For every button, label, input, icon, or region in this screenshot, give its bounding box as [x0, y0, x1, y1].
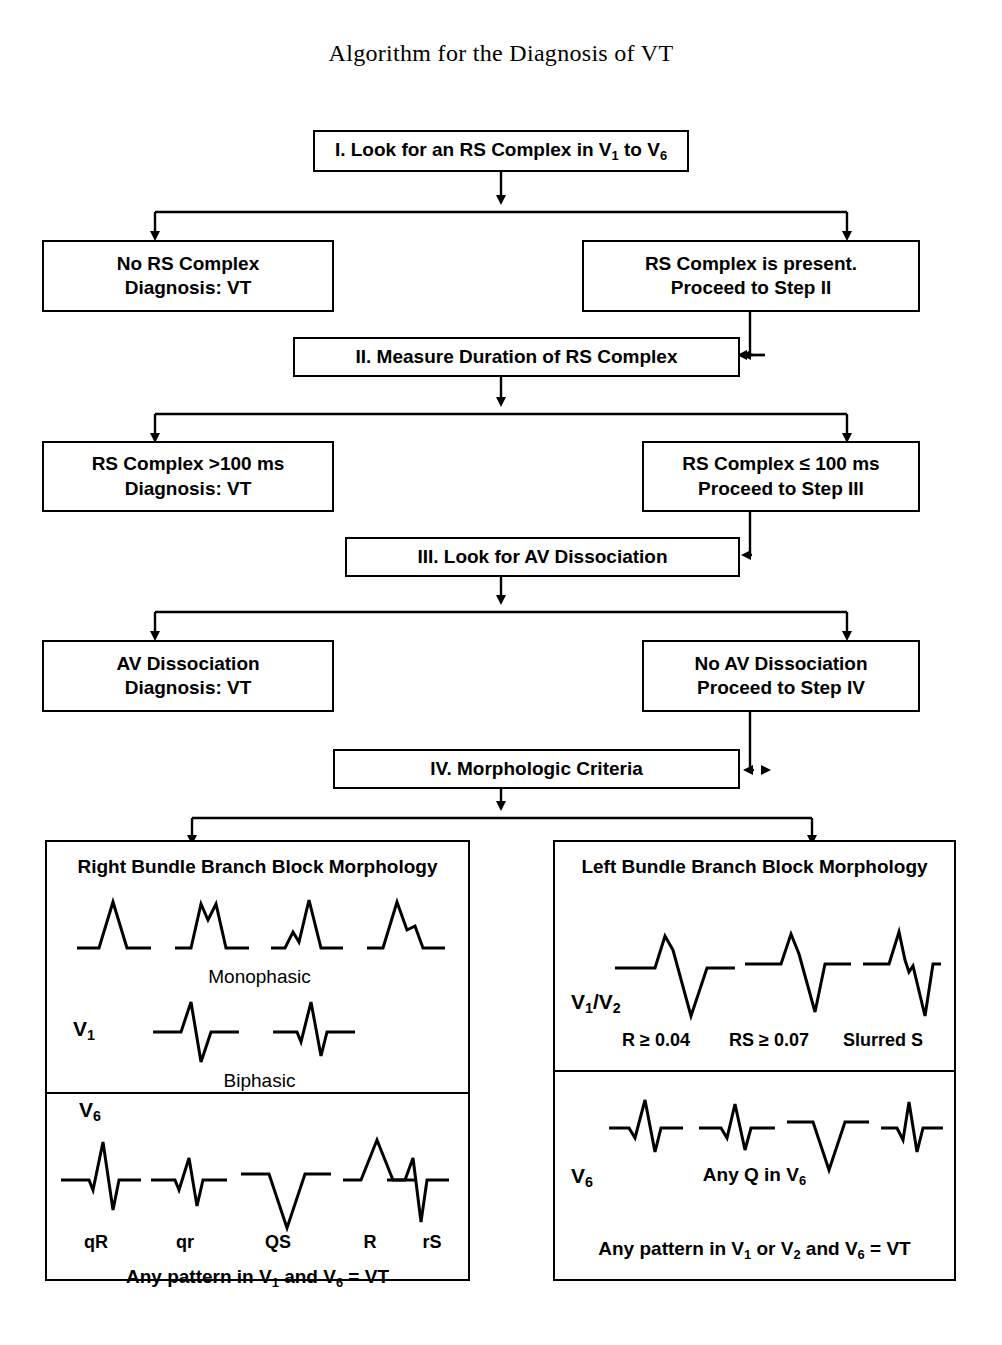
step-3-no-line1: AV Dissociation [116, 652, 259, 676]
rbbb-panel-title: Right Bundle Branch Block Morphology [47, 856, 468, 878]
step-3-no-line2: Diagnosis: VT [125, 676, 252, 700]
lbbb-v12-waveforms [611, 920, 941, 1030]
step-1-no-line1: No RS Complex [117, 252, 260, 276]
step-2-no-line2: Diagnosis: VT [125, 477, 252, 501]
rbbb-footer: Any pattern in V1 and V6 = VT [47, 1266, 468, 1290]
rbbb-v6-label-0: qR [61, 1232, 131, 1253]
step-2-no-box[interactable]: RS Complex >100 ms Diagnosis: VT [42, 441, 334, 512]
step-2-label: II. Measure Duration of RS Complex [356, 345, 678, 369]
rbbb-monophasic-waveforms [71, 890, 461, 962]
step-2-no-line1: RS Complex >100 ms [92, 452, 285, 476]
rbbb-lead-v1-label: V1 [73, 1017, 95, 1043]
rbbb-biphasic-label: Biphasic [47, 1070, 472, 1092]
rbbb-lead-v6-label: V6 [79, 1098, 101, 1124]
step-1-no-box[interactable]: No RS Complex Diagnosis: VT [42, 240, 334, 312]
step-2-yes-box[interactable]: RS Complex ≤ 100 ms Proceed to Step III [642, 441, 920, 512]
lbbb-criterion-1: RS ≥ 0.07 [713, 1030, 825, 1051]
rbbb-biphasic-waveforms [147, 994, 397, 1072]
step-1-label: I. Look for an RS Complex in V1 to V6 [335, 138, 667, 164]
rbbb-v6-label-2: QS [243, 1232, 313, 1253]
step-3-box[interactable]: III. Look for AV Dissociation [345, 537, 740, 577]
lbbb-criterion-0: R ≥ 0.04 [601, 1030, 711, 1051]
rbbb-v6-label-1: qr [150, 1232, 220, 1253]
rbbb-v6-label-4: rS [397, 1232, 467, 1253]
diagram-page: Algorithm for the Diagnosis of VT [0, 0, 1002, 1345]
step-3-no-box[interactable]: AV Dissociation Diagnosis: VT [42, 640, 334, 712]
rbbb-panel: Right Bundle Branch Block Morphology V1 … [45, 840, 470, 1281]
rbbb-v6-waveforms [55, 1134, 465, 1232]
step-3-yes-line2: Proceed to Step IV [697, 676, 865, 700]
rbbb-monophasic-label: Monophasic [47, 966, 472, 988]
rbbb-section-divider [45, 1092, 470, 1094]
step-2-yes-line2: Proceed to Step III [698, 477, 864, 501]
step-2-box[interactable]: II. Measure Duration of RS Complex [293, 337, 740, 377]
step-3-label: III. Look for AV Dissociation [417, 545, 667, 569]
step-1-yes-line2: Proceed to Step II [671, 276, 831, 300]
lbbb-panel-title: Left Bundle Branch Block Morphology [555, 856, 954, 878]
step-1-yes-line1: RS Complex is present. [645, 252, 857, 276]
step-1-box[interactable]: I. Look for an RS Complex in V1 to V6 [313, 130, 689, 172]
step-1-yes-box[interactable]: RS Complex is present. Proceed to Step I… [582, 240, 920, 312]
lbbb-panel: Left Bundle Branch Block Morphology V1/V… [553, 840, 956, 1281]
step-1-no-line2: Diagnosis: VT [125, 276, 252, 300]
lbbb-criterion-2: Slurred S [827, 1030, 939, 1051]
step-4-box[interactable]: IV. Morphologic Criteria [333, 749, 740, 789]
step-3-yes-box[interactable]: No AV Dissociation Proceed to Step IV [642, 640, 920, 712]
rbbb-v6-label-3: R [335, 1232, 405, 1253]
step-4-label: IV. Morphologic Criteria [430, 757, 643, 781]
step-3-yes-line1: No AV Dissociation [694, 652, 867, 676]
lbbb-section-divider [553, 1070, 956, 1072]
lbbb-anyq-label: Any Q in V6 [555, 1164, 954, 1188]
lbbb-footer: Any pattern in V1 or V2 and V6 = VT [555, 1238, 954, 1262]
step-2-yes-line1: RS Complex ≤ 100 ms [682, 452, 879, 476]
page-title: Algorithm for the Diagnosis of VT [0, 40, 1002, 67]
